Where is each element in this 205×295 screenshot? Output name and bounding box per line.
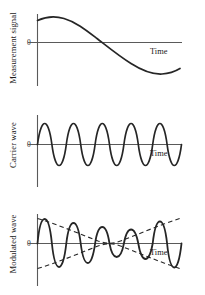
x-axis-label-carrier-wave: Time: [150, 150, 167, 158]
y-axis-label-modulated-wave: Modulated wave: [0, 196, 26, 291]
y-axis-label-carrier-wave: Carrier wave: [0, 97, 26, 192]
panel-carrier-wave: Carrier wave 0 Time: [0, 97, 205, 192]
modulation-figure: Measurement signal 0 Time Carrier wave 0: [0, 0, 205, 295]
y-axis-label-text: Carrier wave: [8, 122, 18, 168]
panel-modulated-wave: Modulated wave 0 Time: [0, 196, 205, 291]
y-axis-label-measurement-signal: Measurement signal: [0, 0, 26, 95]
plot-modulated-wave: [24, 196, 205, 291]
panel-measurement-signal: Measurement signal 0 Time: [0, 0, 205, 95]
x-axis-label-measurement-signal: Time: [150, 48, 167, 56]
x-axis-label-modulated-wave: Time: [150, 249, 167, 257]
y-axis-label-text: Measurement signal: [8, 12, 18, 83]
y-axis-label-text: Modulated wave: [8, 214, 18, 273]
plot-measurement-signal: [24, 0, 205, 95]
plot-carrier-wave: [24, 97, 205, 192]
measurement-signal-curve: [38, 17, 181, 74]
